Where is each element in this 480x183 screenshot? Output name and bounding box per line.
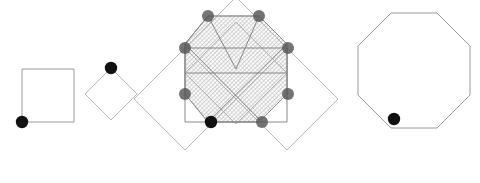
- figure-diamond: [85, 62, 137, 120]
- figure-square: [16, 69, 74, 128]
- octagon-marked-vertex-dot: [388, 113, 400, 125]
- octagon-result-outline: [358, 13, 470, 128]
- vertex-bottom-left-dot: [205, 116, 217, 128]
- diagram-root: [0, 0, 480, 183]
- figure-canvas: [0, 0, 480, 183]
- vertex-upper-right-dot: [282, 42, 294, 54]
- diamond-marked-vertex-dot: [105, 62, 117, 74]
- diamond-outline: [85, 68, 137, 120]
- vertex-bottom-right-dot: [256, 116, 268, 128]
- figure-octagon: [358, 13, 470, 128]
- vertex-lower-left-dot: [179, 88, 191, 100]
- vertex-lower-right-dot: [282, 88, 294, 100]
- vertex-top-left-dot: [202, 10, 214, 22]
- square-outline: [22, 69, 74, 122]
- vertex-top-right-dot: [253, 10, 265, 22]
- square-marked-vertex-dot: [16, 116, 28, 128]
- figure-overlay-construction: [134, 0, 338, 150]
- vertex-upper-left-dot: [179, 42, 191, 54]
